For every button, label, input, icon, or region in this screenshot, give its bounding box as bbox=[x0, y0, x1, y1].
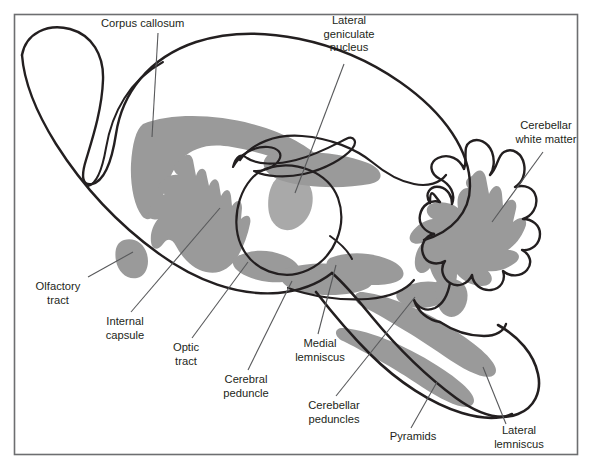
label-line: Internal bbox=[106, 315, 143, 327]
label-line: lemniscus bbox=[295, 351, 345, 363]
brain-sagittal-diagram: Corpus callosumLateralgeniculatenucleusC… bbox=[0, 0, 592, 471]
label-cerebellar-white-matter: Cerebellarwhite matter bbox=[515, 119, 577, 145]
label-line: white matter bbox=[515, 133, 577, 145]
label-line: geniculate bbox=[323, 28, 374, 40]
label-line: tract bbox=[47, 294, 70, 306]
label-line: Olfactory bbox=[36, 280, 81, 292]
label-pyramids: Pyramids bbox=[390, 430, 437, 442]
label-line: Lateral bbox=[502, 424, 536, 436]
label-line: Medial bbox=[304, 337, 337, 349]
label-line: peduncles bbox=[308, 413, 359, 425]
label-line: Cerebral bbox=[225, 373, 268, 385]
label-line: Corpus callosum bbox=[101, 17, 184, 29]
label-cerebral-peduncle: Cerebralpeduncle bbox=[223, 373, 268, 399]
label-line: Cerebellar bbox=[520, 119, 572, 131]
label-line: nucleus bbox=[330, 41, 369, 53]
label-line: peduncle bbox=[223, 387, 268, 399]
label-optic-tract: Optictract bbox=[173, 341, 200, 367]
label-corpus-callosum: Corpus callosum bbox=[101, 17, 184, 29]
label-line: Lateral bbox=[332, 14, 366, 26]
label-line: Optic bbox=[173, 341, 200, 353]
figure-root: Corpus callosumLateralgeniculatenucleusC… bbox=[0, 0, 592, 471]
label-line: tract bbox=[175, 355, 198, 367]
label-line: lemniscus bbox=[494, 438, 544, 450]
label-internal-capsule: Internalcapsule bbox=[106, 315, 145, 341]
label-line: Pyramids bbox=[390, 430, 437, 442]
label-line: Cerebellar bbox=[308, 399, 360, 411]
label-line: capsule bbox=[106, 329, 145, 341]
label-cerebellar-peduncles: Cerebellarpeduncles bbox=[308, 399, 360, 425]
